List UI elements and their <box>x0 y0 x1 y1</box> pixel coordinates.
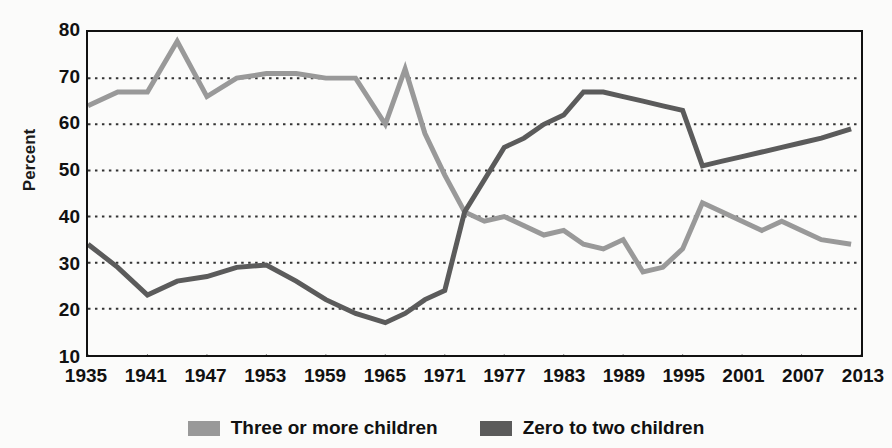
series-line-zero-to-two-children <box>88 92 851 323</box>
chart-legend: Three or more childrenZero to two childr… <box>0 408 892 448</box>
legend-item[interactable]: Three or more children <box>188 417 438 439</box>
x-tick-label: 2013 <box>828 366 892 385</box>
chart-figure: 1020304050607080 19351941194719531959196… <box>0 0 892 448</box>
y-axis-title: Percent <box>20 100 40 220</box>
legend-item[interactable]: Zero to two children <box>480 417 705 439</box>
legend-label: Zero to two children <box>523 417 705 439</box>
legend-label: Three or more children <box>231 417 438 439</box>
plot-svg <box>88 32 861 355</box>
legend-swatch-icon <box>188 421 220 436</box>
plot-area <box>86 30 863 357</box>
legend-swatch-icon <box>480 421 512 436</box>
